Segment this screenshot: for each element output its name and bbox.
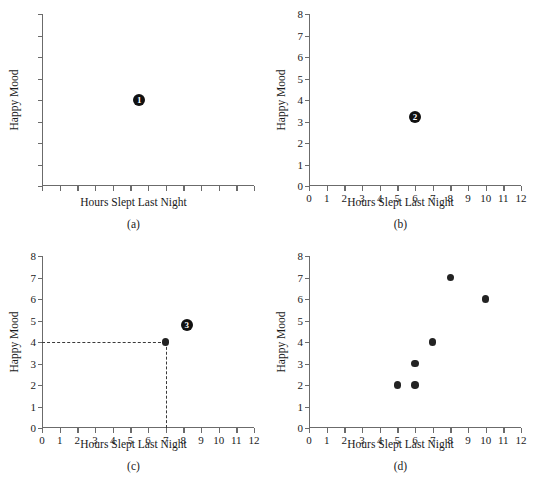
x-tick (42, 186, 43, 191)
data-point (411, 381, 419, 389)
plot-area-c: 01234567891011120123456783 (42, 256, 254, 428)
panel-caption: (a) (0, 218, 267, 230)
x-tick (201, 186, 202, 191)
data-point (429, 338, 437, 346)
guide-line-horizontal (42, 342, 166, 343)
x-tick (219, 186, 220, 191)
y-tick-label: 7 (289, 272, 303, 284)
y-tick (305, 14, 310, 15)
x-tick (254, 186, 255, 191)
x-tick (95, 428, 96, 433)
y-tick (305, 165, 310, 166)
y-tick (38, 278, 43, 279)
plot-area-d: 0123456789101112012345678 (309, 256, 521, 428)
x-tick (60, 428, 61, 433)
callout-badge-2: 2 (409, 111, 422, 124)
y-tick (305, 299, 310, 300)
y-tick-label: 6 (289, 51, 303, 63)
panel-caption: (c) (0, 460, 267, 472)
y-tick-label: 6 (289, 293, 303, 305)
x-tick (166, 428, 167, 433)
y-tick (305, 256, 310, 257)
plot-area-a: 1 (42, 14, 254, 186)
x-tick (183, 428, 184, 433)
y-tick (38, 428, 43, 429)
y-tick-label: 4 (289, 336, 303, 348)
data-point (447, 274, 455, 282)
data-point (411, 360, 419, 368)
x-tick (77, 186, 78, 191)
x-tick (521, 186, 522, 191)
x-tick (450, 186, 451, 191)
panel-caption: (d) (267, 460, 534, 472)
x-tick (166, 186, 167, 191)
y-tick-label: 8 (289, 8, 303, 20)
x-tick (415, 186, 416, 191)
figure-panel-grid: 1Happy MoodHours Slept Last Night(a) 012… (0, 0, 534, 484)
x-tick (521, 428, 522, 433)
data-point (162, 338, 170, 346)
y-tick-label: 3 (289, 358, 303, 370)
y-tick-label: 4 (289, 94, 303, 106)
x-tick (236, 186, 237, 191)
y-tick (305, 385, 310, 386)
y-tick (305, 321, 310, 322)
y-tick-label: 2 (289, 379, 303, 391)
x-tick (503, 186, 504, 191)
x-tick (113, 186, 114, 191)
y-tick-label: 0 (289, 180, 303, 192)
panel-b: 01234567891011120123456782Happy MoodHour… (267, 0, 534, 242)
y-tick-label: 7 (22, 272, 36, 284)
y-tick (305, 186, 310, 187)
y-tick (305, 57, 310, 58)
y-tick (305, 143, 310, 144)
y-tick-label: 4 (22, 336, 36, 348)
y-tick-label: 8 (22, 250, 36, 262)
y-axis-title: Happy Mood (273, 256, 287, 428)
x-tick (130, 186, 131, 191)
y-tick (38, 186, 43, 187)
y-axis-title: Happy Mood (273, 14, 287, 186)
y-axis-title: Happy Mood (6, 256, 20, 428)
x-tick (362, 186, 363, 191)
x-tick (486, 186, 487, 191)
y-tick (305, 36, 310, 37)
x-tick (486, 428, 487, 433)
x-tick (468, 428, 469, 433)
y-tick-label: 1 (289, 159, 303, 171)
panel-caption: (b) (267, 218, 534, 230)
x-axis-title: Hours Slept Last Night (0, 438, 267, 450)
x-tick (148, 186, 149, 191)
y-tick (38, 364, 43, 365)
y-tick (38, 14, 43, 15)
x-tick (254, 428, 255, 433)
x-tick (148, 428, 149, 433)
x-tick (503, 428, 504, 433)
y-tick (38, 407, 43, 408)
y-tick-label: 6 (22, 293, 36, 305)
y-tick-label: 5 (22, 315, 36, 327)
y-tick-label: 1 (22, 401, 36, 413)
y-tick (38, 79, 43, 80)
x-tick (397, 428, 398, 433)
y-tick (305, 342, 310, 343)
x-tick (380, 428, 381, 433)
y-tick-label: 3 (289, 116, 303, 128)
x-tick (309, 186, 310, 191)
callout-badge-3: 3 (181, 319, 194, 332)
panel-a: 1Happy MoodHours Slept Last Night(a) (0, 0, 267, 242)
x-tick (130, 428, 131, 433)
y-axis-line (309, 256, 310, 428)
x-tick (433, 186, 434, 191)
x-tick (362, 428, 363, 433)
y-tick (305, 364, 310, 365)
x-axis-title: Hours Slept Last Night (267, 196, 534, 208)
y-tick-label: 8 (289, 250, 303, 262)
y-tick (38, 100, 43, 101)
y-tick (38, 256, 43, 257)
callout-badge-1: 1 (133, 94, 146, 107)
data-point (394, 381, 402, 389)
x-tick (183, 186, 184, 191)
x-tick (201, 428, 202, 433)
x-tick (450, 428, 451, 433)
